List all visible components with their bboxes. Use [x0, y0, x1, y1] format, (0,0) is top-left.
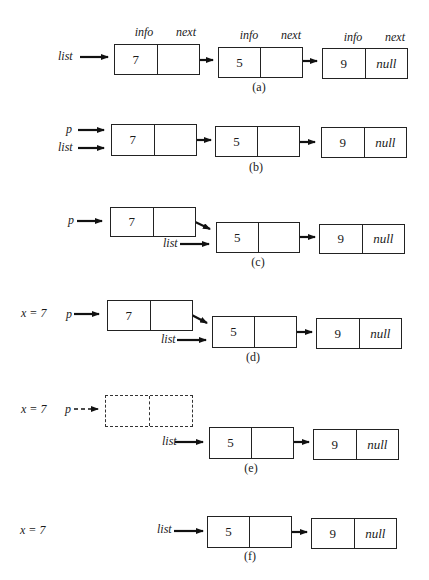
- info-field: 9: [314, 430, 356, 459]
- info-field: 7: [108, 301, 150, 330]
- next-field: [153, 208, 196, 236]
- next-field: [154, 125, 197, 155]
- info-field: [106, 396, 149, 426]
- pointer-label-list: list: [161, 332, 176, 347]
- list-node: 5: [209, 427, 294, 459]
- next-field: [258, 223, 300, 252]
- list-node: 5: [215, 126, 300, 157]
- pointer-label-list: list: [58, 140, 73, 155]
- next-field: [254, 317, 296, 347]
- list-node: 7: [114, 44, 200, 75]
- list-node: 9 null: [313, 429, 399, 460]
- header-info: info: [123, 25, 165, 40]
- variable-x: x = 7: [21, 402, 46, 417]
- info-field: 5: [216, 127, 257, 156]
- list-node: 9 null: [316, 318, 402, 349]
- header-next: next: [165, 25, 207, 40]
- pointer-label-p: p: [66, 122, 72, 137]
- next-field: [257, 127, 299, 156]
- caption-d: (d): [238, 350, 268, 365]
- next-field: null: [364, 128, 407, 157]
- list-node: 5: [218, 47, 303, 78]
- info-field: 7: [111, 208, 153, 236]
- info-field: 9: [317, 319, 359, 348]
- next-field: null: [365, 49, 408, 78]
- info-field: 9: [312, 519, 354, 548]
- caption-e: (e): [236, 461, 266, 476]
- info-field: 5: [208, 517, 249, 547]
- list-node: 9 null: [319, 224, 405, 254]
- header-next: next: [270, 28, 312, 43]
- info-field: 9: [323, 49, 365, 78]
- pointer-label-p: p: [65, 402, 71, 417]
- info-field: 5: [219, 48, 260, 77]
- arrows-layer: [0, 0, 429, 580]
- info-field: 5: [210, 428, 251, 458]
- pointer-label-p: p: [66, 307, 72, 322]
- list-node: 5: [216, 222, 300, 253]
- next-field: null: [356, 430, 399, 459]
- list-node: 7: [107, 300, 193, 331]
- list-node: 7: [110, 207, 196, 237]
- caption-f: (f): [235, 549, 265, 564]
- list-node: 9 null: [322, 48, 408, 79]
- next-field: null: [354, 519, 397, 548]
- pointer-label-list: list: [163, 236, 178, 251]
- next-field: [149, 396, 193, 426]
- pointer-label-list: list: [162, 434, 177, 449]
- caption-a: (a): [244, 80, 274, 95]
- info-field: 9: [320, 225, 362, 253]
- list-node: 9 null: [321, 127, 407, 158]
- header-info: info: [228, 28, 270, 43]
- variable-x: x = 7: [20, 523, 45, 538]
- next-field: null: [359, 319, 402, 348]
- next-field: [157, 45, 200, 74]
- next-field: [251, 428, 293, 458]
- caption-c: (c): [243, 255, 273, 270]
- info-field: 7: [112, 125, 154, 155]
- list-node: 9 null: [311, 518, 397, 549]
- list-node: 5: [212, 316, 297, 348]
- info-field: 5: [217, 223, 258, 252]
- freed-node: [105, 395, 193, 427]
- list-node: 7: [111, 124, 197, 156]
- pointer-label-p: p: [68, 213, 74, 228]
- info-field: 9: [322, 128, 364, 157]
- header-next: next: [374, 30, 416, 45]
- variable-x: x = 7: [21, 306, 46, 321]
- next-field: [260, 48, 302, 77]
- info-field: 7: [115, 45, 157, 74]
- pointer-label-list: list: [157, 522, 172, 537]
- next-field: [249, 517, 291, 547]
- pointer-label-list: list: [58, 49, 73, 64]
- next-field: [150, 301, 193, 330]
- list-node: 5: [207, 516, 292, 548]
- header-info: info: [332, 30, 374, 45]
- info-field: 5: [213, 317, 254, 347]
- next-field: null: [362, 225, 405, 253]
- caption-b: (b): [241, 160, 271, 175]
